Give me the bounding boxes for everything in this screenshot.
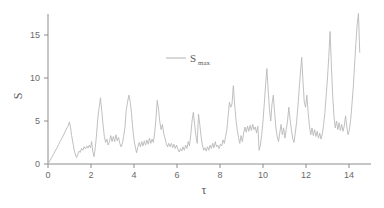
x-axis-tick-label: 10 xyxy=(258,170,268,180)
x-axis-tick-label: 0 xyxy=(45,170,50,180)
x-axis-tick-label: 2 xyxy=(88,170,93,180)
x-axis-tick-label: 12 xyxy=(301,170,311,180)
x-axis-tick-label: 4 xyxy=(131,170,136,180)
y-axis-title: S xyxy=(11,93,25,100)
chart-figure: 051015 02468101214 S max S τ xyxy=(0,0,384,208)
y-axis-tick-label: 10 xyxy=(30,73,40,83)
x-axis-tick-label: 8 xyxy=(217,170,222,180)
x-axis-tick-label: 14 xyxy=(344,170,354,180)
y-axis-tick-label: 0 xyxy=(35,159,40,169)
legend-label-smax: S xyxy=(190,52,196,64)
line-chart: 051015 02468101214 S max S τ xyxy=(0,0,384,208)
y-axis-tick-label: 5 xyxy=(35,116,40,126)
chart-background xyxy=(0,0,384,208)
legend-label-smax-subscript: max xyxy=(198,59,211,67)
x-axis-title: τ xyxy=(202,183,207,197)
y-axis-tick-label: 15 xyxy=(30,30,40,40)
x-axis-tick-label: 6 xyxy=(174,170,179,180)
